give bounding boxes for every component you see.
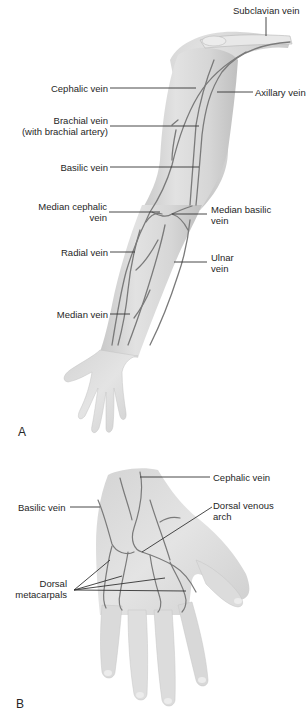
label-dorsal-arch-line2: arch	[213, 511, 274, 522]
label-brachial-line1: Brachial vein	[22, 115, 108, 126]
panel-letter-a: A	[18, 425, 26, 439]
label-dorsal-metacarpals: Dorsal metacarpals	[15, 578, 67, 600]
label-median-cephalic-line2: vein	[38, 212, 107, 223]
label-median-cephalic-vein: Median cephalic vein	[38, 201, 107, 223]
label-basilic-vein-hand: Basilic vein	[18, 502, 66, 513]
label-ulnar-line2: vein	[211, 263, 234, 274]
label-dorsal-venous-arch: Dorsal venous arch	[213, 500, 274, 522]
label-median-basilic-line2: vein	[211, 215, 271, 226]
label-cephalic-vein-hand: Cephalic vein	[213, 472, 270, 483]
label-median-vein: Median vein	[57, 309, 108, 320]
label-metacarpals-line2: metacarpals	[15, 589, 67, 600]
label-axillary-vein: Axillary vein	[255, 87, 306, 98]
label-median-basilic-line1: Median basilic	[211, 204, 271, 215]
label-ulnar-vein: Ulnar vein	[211, 252, 234, 274]
label-dorsal-arch-line1: Dorsal venous	[213, 500, 274, 511]
label-median-cephalic-line1: Median cephalic	[38, 201, 107, 212]
label-cephalic-vein: Cephalic vein	[51, 83, 108, 94]
label-median-basilic-vein: Median basilic vein	[211, 204, 271, 226]
label-radial-vein: Radial vein	[61, 247, 108, 258]
illustration	[0, 0, 308, 722]
label-brachial-line2: (with brachial artery)	[22, 126, 108, 137]
label-basilic-vein: Basilic vein	[60, 162, 108, 173]
panel-letter-b: B	[16, 697, 24, 711]
label-metacarpals-line1: Dorsal	[15, 578, 67, 589]
label-subclavian-vein: Subclavian vein	[233, 5, 300, 16]
label-brachial-vein: Brachial vein (with brachial artery)	[22, 115, 108, 137]
label-ulnar-line1: Ulnar	[211, 252, 234, 263]
anatomy-figure: Subclavian vein Cephalic vein Axillary v…	[0, 0, 308, 722]
